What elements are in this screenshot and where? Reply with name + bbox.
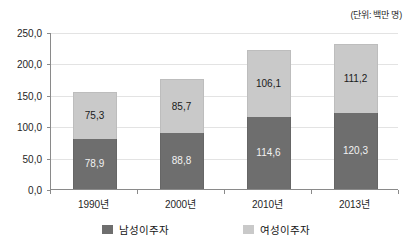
legend-swatch-female-icon xyxy=(243,225,254,234)
bar-segment-male[interactable]: 78,9 xyxy=(73,139,117,189)
bar-segment-female[interactable]: 75,3 xyxy=(73,92,117,139)
bar-segment-male[interactable]: 120,3 xyxy=(334,113,378,189)
bar-segment-male[interactable]: 88,8 xyxy=(160,133,204,189)
y-axis-tick-label: 250,0 xyxy=(0,28,42,39)
bar-value-label: 120,3 xyxy=(343,146,368,156)
x-axis-tick xyxy=(50,190,51,194)
bar-value-label: 85,7 xyxy=(172,102,191,112)
bar-group[interactable]: 85,788,8 xyxy=(160,79,204,189)
x-axis-category-label: 1990년 xyxy=(54,196,134,211)
legend-label-male: 남성이주자 xyxy=(119,222,169,237)
x-axis-category-label: 2000년 xyxy=(141,196,221,211)
stacked-bar-chart: (단위: 백만 명) 0,050,0100,0150,0200,0250,0 7… xyxy=(0,0,412,252)
plot-area: 75,378,985,788,8106,1114,6111,2120,3 xyxy=(50,33,398,190)
legend-swatch-male-icon xyxy=(102,225,113,234)
x-axis-category-label: 2010년 xyxy=(228,196,308,211)
y-axis-tick xyxy=(47,96,51,97)
x-axis-category-label: 2013년 xyxy=(315,196,395,211)
y-axis-tick-label: 200,0 xyxy=(0,59,42,70)
bar-group[interactable]: 111,2120,3 xyxy=(334,44,378,189)
bar-segment-female[interactable]: 106,1 xyxy=(247,50,291,117)
gridline xyxy=(51,33,398,34)
bar-segment-female[interactable]: 85,7 xyxy=(160,79,204,133)
bar-segment-male[interactable]: 114,6 xyxy=(247,117,291,189)
x-axis-tick xyxy=(224,190,225,194)
chart-legend: 남성이주자 여성이주자 xyxy=(0,222,412,237)
y-axis-tick xyxy=(47,64,51,65)
bar-segment-female[interactable]: 111,2 xyxy=(334,44,378,114)
y-axis-tick-label: 0,0 xyxy=(0,185,42,196)
unit-annotation: (단위: 백만 명) xyxy=(351,8,403,21)
bar-value-label: 88,8 xyxy=(172,156,191,166)
legend-label-female: 여성이주자 xyxy=(260,222,310,237)
legend-item-male[interactable]: 남성이주자 xyxy=(102,222,169,237)
x-axis-tick xyxy=(311,190,312,194)
bar-value-label: 114,6 xyxy=(256,148,280,158)
bar-group[interactable]: 106,1114,6 xyxy=(247,50,291,189)
bar-value-label: 111,2 xyxy=(344,74,368,84)
y-axis-tick-label: 50,0 xyxy=(0,153,42,164)
bar-value-label: 78,9 xyxy=(85,159,104,169)
y-axis-tick-label: 100,0 xyxy=(0,122,42,133)
x-axis-tick xyxy=(398,190,399,194)
bar-value-label: 75,3 xyxy=(85,111,104,121)
y-axis-tick xyxy=(47,127,51,128)
bar-value-label: 106,1 xyxy=(256,79,281,89)
bar-group[interactable]: 75,378,9 xyxy=(73,92,117,189)
y-axis-tick xyxy=(47,159,51,160)
y-axis-tick xyxy=(47,33,51,34)
legend-item-female[interactable]: 여성이주자 xyxy=(243,222,310,237)
x-axis-tick xyxy=(137,190,138,194)
y-axis-tick-label: 150,0 xyxy=(0,90,42,101)
